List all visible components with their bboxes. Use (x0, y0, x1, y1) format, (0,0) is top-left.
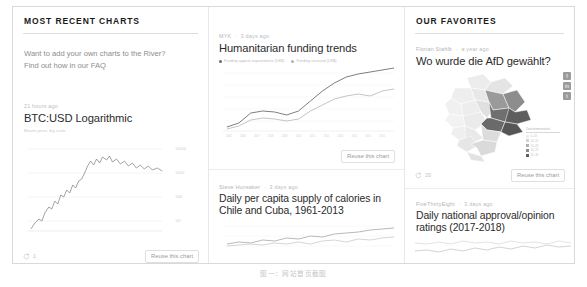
map-legend-swatch (526, 139, 529, 142)
map-legend-label: 25–35 (531, 153, 539, 157)
humanitarian-gridlines (223, 73, 394, 121)
map-legend-swatch (526, 144, 529, 147)
chart-card-calories[interactable]: Steve Hunsaker · 3 days ago Daily per ca… (209, 169, 404, 252)
twitter-share-icon[interactable]: t (563, 92, 571, 100)
disapproval-line (415, 241, 571, 244)
chart-card-humanitarian-time: 3 days ago (241, 33, 269, 39)
chart-card-btc[interactable]: 21 hours ago BTC:USD Logarithmic Bitcoin… (13, 94, 208, 263)
approval-line (415, 245, 571, 252)
svg-text:2006: 2006 (240, 134, 246, 138)
map-legend-label: 0–10 (531, 134, 537, 138)
reuse-icon (415, 172, 422, 179)
svg-text:2007: 2007 (254, 134, 260, 138)
promo-line-2[interactable]: Find out how in our FAQ (24, 60, 194, 72)
chart-card-btc-subtitle: Bitcoin price, log scale (24, 128, 197, 133)
chart-card-approval-author[interactable]: FiveThirtyEight (416, 201, 455, 207)
map-legend-swatch (526, 154, 529, 157)
chart-card-humanitarian-author[interactable]: MYK (219, 33, 231, 39)
chart-card-approval[interactable]: FiveThirtyEight · 3 days ago Daily natio… (405, 188, 574, 257)
reuse-count-btc-value: 1 (33, 253, 36, 259)
map-legend-label: 10–15 (531, 139, 539, 143)
chart-card-humanitarian-byline: MYK · 3 days ago (219, 33, 394, 39)
chart-card-calories-byline: Steve Hunsaker · 3 days ago (219, 184, 394, 190)
svg-text:2014: 2014 (351, 134, 357, 138)
chart-card-calories-head: Steve Hunsaker · 3 days ago Daily per ca… (209, 170, 404, 218)
columns-layout: MOST RECENT CHARTS Want to add your own … (13, 7, 574, 263)
svg-text:2011: 2011 (310, 134, 316, 138)
svg-text:100000: 100000 (175, 147, 186, 151)
reuse-button-humanitarian[interactable]: Reuse this chart (341, 150, 395, 163)
svg-text:2013: 2013 (337, 134, 343, 138)
chart-card-approval-byline: FiveThirtyEight · 3 days ago (416, 201, 564, 207)
chart-card-approval-time: 3 days ago (464, 201, 492, 207)
chart-plot-humanitarian: 20052006 20072008 20092010 20112012 2013… (209, 63, 404, 145)
reuse-count-afd[interactable]: 20 (415, 172, 431, 179)
svg-text:2012: 2012 (324, 134, 330, 138)
promo-line-1: Want to add your own charts to the River… (24, 48, 194, 60)
reuse-button-btc[interactable]: Reuse this chart (145, 250, 199, 263)
btc-price-line (31, 156, 162, 229)
map-legend: Zweitstimmenanteil 0–10 10–15 15–20 (526, 127, 560, 158)
svg-text:2008: 2008 (268, 134, 274, 138)
map-legend-row: 15–20 (526, 144, 560, 148)
map-legend-label: 20–25 (531, 148, 539, 152)
chart-card-afd-byline: Florian Stahlb · a year ago (416, 46, 564, 52)
chart-card-humanitarian-title[interactable]: Humanitarian funding trends (219, 42, 394, 55)
column-middle: MYK · 3 days ago Humanitarian funding tr… (209, 7, 405, 263)
chart-card-afd[interactable]: Florian Stahlb · a year ago Wo wurde die… (405, 34, 574, 188)
map-legend-row: 10–15 (526, 139, 560, 143)
chart-card-humanitarian-head: MYK · 3 days ago Humanitarian funding tr… (209, 7, 404, 63)
section-heading-favorites: OUR FAVORITES (405, 7, 574, 26)
approval-line-svg (405, 235, 574, 257)
section-heading-most-recent: MOST RECENT CHARTS (13, 7, 208, 26)
screenshot-frame: MOST RECENT CHARTS Want to add your own … (12, 6, 575, 264)
chart-card-humanitarian[interactable]: MYK · 3 days ago Humanitarian funding tr… (209, 7, 404, 169)
chart-card-afd-footer: 20 Reuse this chart (405, 164, 574, 188)
linkedin-share-icon[interactable]: in (563, 82, 571, 90)
chart-card-afd-time: a year ago (461, 46, 488, 52)
svg-text:2009: 2009 (282, 134, 288, 138)
chart-card-calories-title[interactable]: Daily per capita supply of calories in C… (219, 193, 394, 218)
calories-line-svg (209, 218, 404, 252)
map-legend-row: 20–25 (526, 148, 560, 152)
chart-plot-btc: 100000 10000 1000 100 (13, 135, 208, 245)
facebook-share-icon[interactable]: f (563, 72, 571, 80)
chart-card-afd-author[interactable]: Florian Stahlb (416, 46, 452, 52)
btc-line-svg: 100000 10000 1000 100 (13, 135, 208, 245)
chart-card-calories-author[interactable]: Steve Hunsaker (219, 184, 260, 190)
btc-y-ticks: 100000 10000 1000 100 (175, 147, 186, 223)
chart-card-approval-title[interactable]: Daily national approval/opinion ratings … (416, 210, 564, 235)
chart-card-btc-time: 21 hours ago (24, 103, 58, 109)
byline-separator: · (233, 33, 239, 39)
chart-card-humanitarian-footer: Reuse this chart (209, 145, 404, 169)
byline-separator: · (262, 184, 268, 190)
germany-regions (445, 74, 531, 162)
humanitarian-line-svg: 20052006 20072008 20092010 20112012 2013… (209, 63, 404, 145)
chart-card-btc-footer: 1 Reuse this chart (13, 245, 208, 263)
svg-text:2010: 2010 (296, 134, 302, 138)
chart-card-btc-byline: 21 hours ago (24, 103, 197, 109)
map-legend-row: 25–35 (526, 153, 560, 157)
byline-separator: · (454, 46, 460, 52)
reuse-count-btc[interactable]: 1 (23, 253, 36, 260)
chart-plot-afd-map: f in t Zweitstimmenanteil 0–10 10–15 (405, 68, 574, 164)
svg-text:2015: 2015 (365, 134, 371, 138)
chart-card-btc-head: 21 hours ago BTC:USD Logarithmic Bitcoin… (13, 94, 208, 133)
reuse-icon (23, 253, 30, 260)
column-most-recent: MOST RECENT CHARTS Want to add your own … (13, 7, 209, 263)
promo-block: Want to add your own charts to the River… (13, 34, 208, 72)
chart-card-afd-title[interactable]: Wo wurde die AfD gewählt? (416, 55, 564, 68)
map-legend-swatch (526, 149, 529, 152)
reuse-button-afd[interactable]: Reuse this chart (511, 169, 565, 182)
share-buttons[interactable]: f in t (563, 72, 571, 100)
chart-plot-calories (209, 218, 404, 252)
chart-card-approval-head: FiveThirtyEight · 3 days ago Daily natio… (405, 189, 574, 235)
chart-card-afd-head: Florian Stahlb · a year ago Wo wurde die… (405, 34, 574, 68)
calories-cuba-line (227, 237, 394, 246)
map-legend-title: Zweitstimmenanteil (526, 127, 560, 133)
btc-gridlines (27, 149, 162, 221)
figure-caption: 图一：网站首页截图 (0, 268, 587, 278)
chart-card-btc-title[interactable]: BTC:USD Logarithmic (24, 112, 197, 125)
humanitarian-requirements-line (227, 68, 394, 127)
chart-card-calories-time: 3 days ago (270, 184, 298, 190)
